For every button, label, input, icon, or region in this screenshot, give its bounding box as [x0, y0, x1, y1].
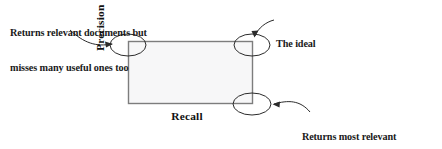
annotation-bottom-right: Returns most relevant documents but incl… — [299, 108, 399, 149]
diagram-canvas: Returns relevant documents but misses ma… — [0, 0, 442, 149]
y-axis-label: Precision — [94, 4, 106, 51]
annotation-top-right: The ideal — [276, 15, 316, 73]
annotation-top-left-line2: misses many useful ones too — [10, 62, 147, 74]
x-axis-label: Recall — [152, 110, 222, 122]
plot-area-rectangle — [129, 42, 253, 104]
annotation-top-left-line1: Returns relevant documents but — [10, 27, 147, 39]
annotation-bottom-right-line1: Returns most relevant — [299, 131, 399, 143]
annotation-top-right-line1: The ideal — [276, 38, 316, 50]
leader-arrow-bottom-right — [273, 102, 281, 108]
annotation-top-left: Returns relevant documents but misses ma… — [10, 4, 147, 96]
leader-line-top-right — [255, 20, 274, 36]
